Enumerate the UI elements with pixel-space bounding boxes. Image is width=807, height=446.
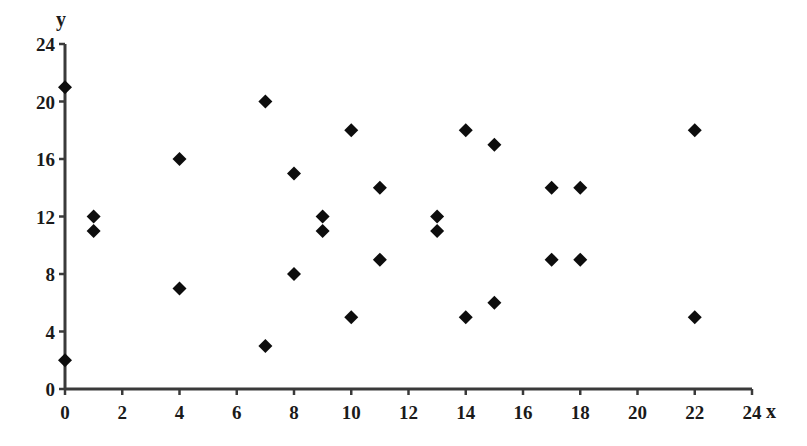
scatter-chart: 024681012141618202224 04812162024 x y <box>0 0 807 446</box>
x-tick-label: 6 <box>232 402 242 423</box>
x-tick-label: 16 <box>514 402 533 423</box>
data-point <box>487 138 501 152</box>
x-tick-label: 14 <box>456 402 476 423</box>
data-point <box>344 123 358 137</box>
y-tick-label: 24 <box>36 34 56 55</box>
data-point <box>545 253 559 267</box>
data-point <box>173 152 187 166</box>
x-axis-ticks: 024681012141618202224 <box>60 389 762 423</box>
axes <box>65 44 752 389</box>
data-point <box>373 181 387 195</box>
y-tick-label: 12 <box>36 207 55 228</box>
data-point <box>459 310 473 324</box>
data-point <box>688 310 702 324</box>
data-point <box>688 123 702 137</box>
y-tick-label: 4 <box>46 322 56 343</box>
data-point <box>87 224 101 238</box>
data-point <box>573 181 587 195</box>
x-tick-label: 20 <box>628 402 647 423</box>
x-tick-label: 2 <box>118 402 128 423</box>
x-tick-label: 24 <box>743 402 763 423</box>
data-point <box>573 253 587 267</box>
y-tick-label: 0 <box>46 379 56 400</box>
x-tick-label: 8 <box>289 402 299 423</box>
x-tick-label: 10 <box>342 402 361 423</box>
data-point <box>344 310 358 324</box>
x-tick-label: 4 <box>175 402 185 423</box>
data-point <box>545 181 559 195</box>
data-point <box>287 166 301 180</box>
data-point <box>258 95 272 109</box>
y-tick-label: 16 <box>36 149 55 170</box>
data-point <box>316 224 330 238</box>
data-point <box>430 210 444 224</box>
data-points <box>58 80 702 367</box>
x-tick-label: 12 <box>399 402 418 423</box>
y-tick-label: 8 <box>46 264 56 285</box>
x-tick-label: 22 <box>685 402 704 423</box>
x-tick-label: 0 <box>60 402 70 423</box>
data-point <box>87 210 101 224</box>
x-axis-title: x <box>766 400 776 422</box>
data-point <box>58 353 72 367</box>
y-tick-label: 20 <box>36 92 55 113</box>
data-point <box>173 281 187 295</box>
data-point <box>258 339 272 353</box>
data-point <box>430 224 444 238</box>
y-axis-title: y <box>56 8 66 31</box>
data-point <box>58 80 72 94</box>
data-point <box>373 253 387 267</box>
data-point <box>487 296 501 310</box>
data-point <box>459 123 473 137</box>
x-tick-label: 18 <box>571 402 590 423</box>
data-point <box>287 267 301 281</box>
data-point <box>316 210 330 224</box>
